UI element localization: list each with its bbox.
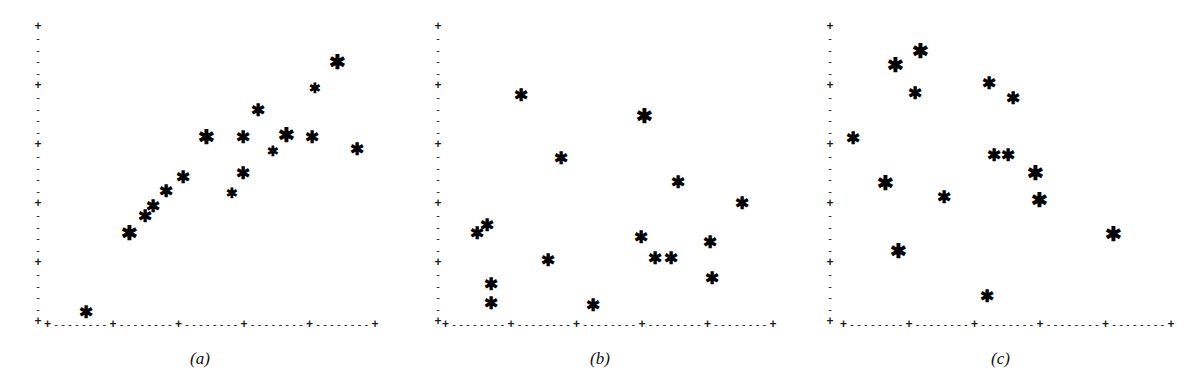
x-axis-minor-tick: - — [365, 317, 369, 331]
x-axis-minor-tick: - — [292, 317, 296, 331]
data-point: ✱ — [159, 182, 173, 199]
y-axis-minor-tick: - — [430, 107, 446, 112]
x-axis-minor-tick: - — [632, 317, 636, 331]
y-axis-minor-tick: - — [430, 213, 446, 218]
x-axis-minor-tick: - — [1119, 317, 1123, 331]
x-axis-minor-tick: - — [1023, 317, 1027, 331]
x-axis-major-tick: + — [306, 317, 313, 331]
panel-caption-b: (b) — [400, 349, 800, 369]
x-axis-minor-tick: - — [857, 317, 861, 331]
x-axis-minor-tick: - — [649, 317, 653, 331]
x-axis-minor-tick: - — [625, 317, 629, 331]
x-axis-major-tick: + — [1037, 317, 1044, 331]
y-axis-minor-tick: - — [430, 189, 446, 194]
x-axis-major-tick: + — [372, 317, 379, 331]
data-point: ✱ — [251, 101, 265, 118]
data-point: ✱ — [554, 149, 568, 166]
y-axis-minor-tick: - — [30, 189, 46, 194]
y-axis-minor-tick: - — [430, 130, 446, 135]
x-axis-minor-tick: - — [950, 317, 954, 331]
x-axis-minor-tick: - — [103, 317, 107, 331]
x-axis-minor-tick: - — [1061, 317, 1065, 331]
y-axis-major-tick: + — [822, 260, 838, 265]
x-axis-a: +--------+--------+--------+--------+---… — [44, 317, 379, 331]
data-point: ✱ — [887, 55, 904, 75]
data-point: ✱ — [648, 250, 662, 267]
x-axis-minor-tick: - — [265, 317, 269, 331]
x-axis-minor-tick: - — [878, 317, 882, 331]
x-axis-minor-tick: - — [61, 317, 65, 331]
x-axis-minor-tick: - — [590, 317, 594, 331]
y-axis-minor-tick: - — [430, 36, 446, 41]
x-axis-minor-tick: - — [885, 317, 889, 331]
x-axis-minor-tick: - — [1030, 317, 1034, 331]
x-axis-minor-tick: - — [140, 317, 144, 331]
x-axis-major-tick: + — [704, 317, 711, 331]
data-point: ✱ — [735, 194, 749, 211]
y-axis-minor-tick: - — [430, 272, 446, 277]
data-point: ✱ — [1027, 163, 1044, 183]
x-axis-minor-tick: - — [199, 317, 203, 331]
y-axis-minor-tick: - — [822, 177, 838, 182]
y-axis-minor-tick: - — [430, 166, 446, 171]
panel-caption-c: (c) — [800, 349, 1201, 369]
y-axis-major-tick: + — [30, 24, 46, 29]
panel-caption-a: (a) — [0, 349, 400, 369]
x-axis-minor-tick: - — [161, 317, 165, 331]
y-axis-minor-tick: - — [430, 225, 446, 230]
data-point: ✱ — [1031, 190, 1048, 210]
y-axis-minor-tick: - — [822, 189, 838, 194]
x-axis-minor-tick: - — [154, 317, 158, 331]
x-axis-minor-tick: - — [981, 317, 985, 331]
x-axis-major-tick: + — [639, 317, 646, 331]
y-axis-major-tick: + — [30, 260, 46, 265]
y-axis-minor-tick: - — [30, 48, 46, 53]
y-axis-minor-tick: - — [822, 284, 838, 289]
data-point: ✱ — [226, 187, 238, 201]
y-axis-major-tick: + — [822, 142, 838, 147]
y-axis-minor-tick: - — [822, 166, 838, 171]
panel-a: ✱✱✱✱✱✱✱✱✱✱✱✱✱✱✱✱✱ +----+----+----+----+-… — [0, 0, 400, 373]
y-axis-minor-tick: - — [430, 248, 446, 253]
x-axis-minor-tick: - — [251, 317, 255, 331]
x-axis-minor-tick: - — [480, 317, 484, 331]
x-axis-minor-tick: - — [749, 317, 753, 331]
y-axis-major-tick: + — [30, 142, 46, 147]
y-axis-minor-tick: - — [30, 177, 46, 182]
x-axis-minor-tick: - — [532, 317, 536, 331]
data-point: ✱ — [480, 217, 494, 234]
x-axis-minor-tick: - — [552, 317, 556, 331]
y-axis-minor-tick: - — [430, 295, 446, 300]
data-point: ✱ — [176, 169, 190, 186]
x-axis-minor-tick: - — [538, 317, 542, 331]
x-axis-minor-tick: - — [545, 317, 549, 331]
y-axis-minor-tick: - — [30, 272, 46, 277]
y-axis-minor-tick: - — [30, 95, 46, 100]
x-axis-minor-tick: - — [258, 317, 262, 331]
y-axis-minor-tick: - — [30, 225, 46, 230]
x-axis-minor-tick: - — [1002, 317, 1006, 331]
x-axis-minor-tick: - — [583, 317, 587, 331]
x-axis-minor-tick: - — [68, 317, 72, 331]
x-axis-minor-tick: - — [697, 317, 701, 331]
data-point: ✱ — [877, 173, 894, 193]
data-point: ✱ — [1105, 224, 1122, 244]
x-axis-minor-tick: - — [358, 317, 362, 331]
x-axis-minor-tick: - — [330, 317, 334, 331]
y-axis-minor-tick: - — [822, 307, 838, 312]
y-axis-minor-tick: - — [822, 71, 838, 76]
x-axis-minor-tick: - — [669, 317, 673, 331]
x-axis-minor-tick: - — [850, 317, 854, 331]
y-axis-major-tick: + — [822, 319, 838, 324]
data-point: ✱ — [586, 296, 600, 313]
x-axis-minor-tick: - — [466, 317, 470, 331]
x-axis-minor-tick: - — [604, 317, 608, 331]
x-axis-minor-tick: - — [864, 317, 868, 331]
x-axis-minor-tick: - — [1047, 317, 1051, 331]
data-point: ✱ — [236, 128, 250, 145]
x-axis-minor-tick: - — [892, 317, 896, 331]
x-axis-minor-tick: - — [663, 317, 667, 331]
y-axis-minor-tick: - — [822, 225, 838, 230]
x-axis-minor-tick: - — [936, 317, 940, 331]
y-axis-minor-tick: - — [822, 295, 838, 300]
